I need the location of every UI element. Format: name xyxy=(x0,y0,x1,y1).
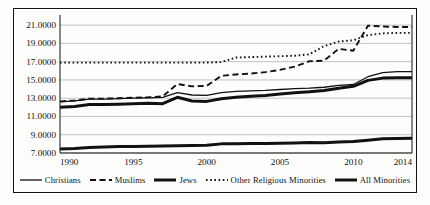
legend-swatch-icon xyxy=(20,176,42,184)
legend-swatch-icon xyxy=(154,176,176,184)
y-tick-label: 9.0000 xyxy=(31,130,57,140)
x-tick-label: 1990 xyxy=(60,157,79,167)
y-tick-label: 17.0000 xyxy=(26,57,56,67)
x-tick-label: 2010 xyxy=(344,157,363,167)
x-tick-label: 2000 xyxy=(197,157,216,167)
legend-label: Jews xyxy=(179,176,196,185)
series-line-muslims xyxy=(60,26,412,102)
legend-label: All Minorities xyxy=(360,176,410,185)
legend-swatch-icon xyxy=(206,176,228,184)
x-tick-label: 2014 xyxy=(394,157,413,167)
x-axis-tick-labels: 199019952000200520102014 xyxy=(60,157,412,167)
y-tick-label: 11.0000 xyxy=(26,111,56,121)
y-tick-label: 15.0000 xyxy=(26,75,56,85)
legend-item-christians[interactable]: Christians xyxy=(20,176,81,185)
y-tick-label: 21.0000 xyxy=(26,20,56,30)
legend-swatch-icon xyxy=(335,176,357,184)
y-tick-label: 13.0000 xyxy=(26,93,56,103)
legend-label: Other Religious Minorities xyxy=(231,176,326,185)
x-tick-label: 2005 xyxy=(271,157,290,167)
y-tick-label: 7.0000 xyxy=(31,148,57,158)
legend-swatch-icon xyxy=(90,176,112,184)
y-tick-label: 19.0000 xyxy=(26,38,56,48)
plot-area: 21.000019.000017.000015.000013.000011.00… xyxy=(13,8,417,193)
legend-label: Christians xyxy=(45,176,81,185)
x-tick-label: 1995 xyxy=(124,157,143,167)
gridlines-group xyxy=(60,25,412,153)
data-series-group xyxy=(60,26,412,149)
legend-item-jews[interactable]: Jews xyxy=(154,176,196,185)
legend-label: Muslims xyxy=(115,176,146,185)
y-axis-tick-labels: 21.000019.000017.000015.000013.000011.00… xyxy=(26,20,56,158)
legend-item-muslims[interactable]: Muslims xyxy=(90,176,146,185)
legend-item-all-minorities[interactable]: All Minorities xyxy=(335,176,410,185)
chart-container: 21.000019.000017.000015.000013.000011.00… xyxy=(0,0,430,205)
series-line-other-religious-minorities xyxy=(60,33,412,63)
legend-item-other-religious-minorities[interactable]: Other Religious Minorities xyxy=(206,176,326,185)
series-line-jews xyxy=(60,138,412,149)
line-chart-svg: 21.000019.000017.000015.000013.000011.00… xyxy=(13,8,417,193)
chart-legend: ChristiansMuslimsJewsOther Religious Min… xyxy=(13,170,417,190)
